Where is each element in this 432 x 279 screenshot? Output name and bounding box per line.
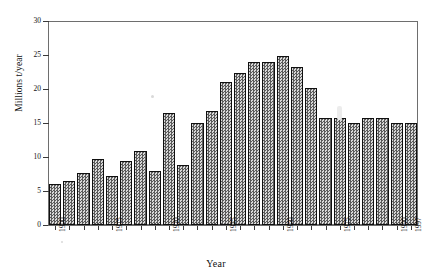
bars-layer [48,21,418,225]
bar [291,67,303,225]
x-axis-tick-label: 1900 [58,217,67,232]
bar [220,82,232,225]
x-axis-tick [126,226,127,230]
y-axis-tick [43,89,49,90]
y-axis-tick [43,123,49,124]
bar [234,73,246,225]
x-axis-tick-label: 1990 [400,217,409,232]
bar [305,88,317,225]
x-axis-tick [183,226,184,230]
y-axis-tick-label: 0 [18,221,41,229]
bar [149,171,161,225]
bar [348,123,360,225]
y-axis-title: Millions t/year [14,37,24,129]
bar [120,161,132,225]
bar [334,118,346,225]
y-axis-tick [43,157,49,158]
y-axis-tick [43,55,49,56]
x-axis-title: Year [0,258,432,269]
x-axis-tick [340,226,341,230]
y-axis-tick [43,191,49,192]
bar [191,123,203,225]
x-axis-tick-label: 1997 [414,217,423,232]
x-axis-tick [382,226,383,230]
x-axis-tick [169,226,170,230]
bar [262,62,274,225]
x-axis-tick-label: 1945 [229,217,238,232]
x-axis-tick [69,226,70,230]
x-axis-tick [98,226,99,230]
x-axis-tick [55,226,56,230]
x-axis-tick-label: 1975 [343,217,352,232]
x-axis-tick [397,226,398,230]
x-axis-tick [269,226,270,230]
x-axis-tick [368,226,369,230]
x-axis-tick [311,226,312,230]
x-axis-tick [326,226,327,230]
y-axis-tick-label: 30 [18,17,41,25]
bar [134,151,146,225]
bar [77,173,89,225]
y-axis-tick-label: 5 [18,187,41,195]
bar [163,113,175,225]
bar [391,123,403,225]
x-axis-tick-label: 1915 [115,217,124,232]
x-axis-tick [197,226,198,230]
x-axis-tick [297,226,298,230]
x-axis-tick [141,226,142,230]
bar [319,118,331,225]
x-axis-tick-label: 1930 [172,217,181,232]
x-axis-tick [283,226,284,230]
x-axis-tick [226,226,227,230]
bar [405,123,417,225]
x-axis-tick [212,226,213,230]
bar [248,62,260,225]
x-axis-tick [354,226,355,230]
bar [206,111,218,225]
bar [376,118,388,225]
x-axis-tick [411,226,412,230]
x-axis-tick [84,226,85,230]
x-axis-tick-label: 1960 [286,217,295,232]
y-axis-tick [43,21,49,22]
x-axis-tick [112,226,113,230]
bar-chart-figure: 302520151050 Millions t/year 19001915193… [0,0,432,279]
x-axis-tick [155,226,156,230]
y-axis-tick-label: 10 [18,153,41,161]
bar [277,56,289,225]
bar [362,118,374,225]
scan-artifact [61,241,63,243]
x-axis-tick [254,226,255,230]
bar [92,159,104,225]
x-axis-tick [240,226,241,230]
